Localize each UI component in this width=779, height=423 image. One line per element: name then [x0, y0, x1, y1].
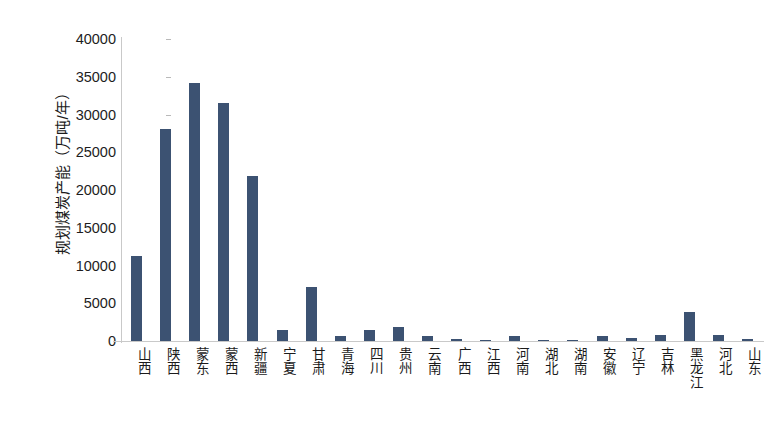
x-tick-label: 广西: [450, 347, 470, 375]
y-tick-label: 0: [50, 333, 116, 349]
x-tick-label: 宁夏: [275, 347, 295, 375]
x-axis-line: [113, 341, 764, 342]
x-tick-label: 河北: [711, 347, 731, 375]
x-tick-label: 陕西: [159, 347, 179, 375]
bar-chart: 规划煤炭产能（万吨/年） 050001000015000200002500030…: [0, 0, 779, 423]
bar: [247, 176, 258, 341]
bar: [567, 340, 578, 341]
bar: [218, 103, 229, 341]
bar: [393, 327, 404, 341]
bar: [509, 336, 520, 341]
x-tick-label: 甘肃: [304, 347, 324, 375]
bar: [422, 336, 433, 341]
x-tick-label: 山西: [130, 347, 150, 375]
x-tick-label: 贵州: [391, 347, 411, 375]
bar: [335, 336, 346, 341]
bar: [713, 335, 724, 341]
bar: [131, 256, 142, 341]
x-tick-label: 云南: [420, 347, 440, 375]
bar: [538, 340, 549, 341]
y-tick-label: 30000: [50, 107, 116, 123]
bar: [160, 129, 171, 341]
bar: [451, 339, 462, 341]
y-tick-label: 25000: [50, 144, 116, 160]
bar: [480, 340, 491, 342]
y-tick-label: 5000: [50, 295, 116, 311]
x-tick-label: 江西: [479, 347, 499, 375]
bar: [364, 330, 375, 341]
x-tick-label: 湖南: [566, 347, 586, 375]
bar: [684, 312, 695, 341]
bar: [189, 83, 200, 341]
y-tick-label: 20000: [50, 182, 116, 198]
x-tick-label: 四川: [362, 347, 382, 375]
x-tick-label: 青海: [333, 347, 353, 375]
x-tick-label: 河南: [508, 347, 528, 375]
x-tick-label: 蒙东: [188, 347, 208, 375]
bar: [626, 338, 637, 341]
x-tick-label: 山东: [740, 347, 760, 375]
y-axis-tick-labels: 0500010000150002000025000300003500040000: [44, 0, 116, 423]
bar: [655, 335, 666, 341]
x-tick-label: 黑龙江: [682, 347, 702, 389]
x-tick-label: 新疆: [246, 347, 266, 375]
y-tick-label: 40000: [50, 31, 116, 47]
plot-area: [122, 39, 762, 341]
bar: [277, 330, 288, 341]
y-tick-label: 10000: [50, 258, 116, 274]
x-tick-label: 湖北: [537, 347, 557, 375]
x-tick-label: 辽宁: [624, 347, 644, 375]
y-tick-label: 35000: [50, 69, 116, 85]
y-tick-label: 15000: [50, 220, 116, 236]
x-tick-label: 吉林: [653, 347, 673, 375]
bar: [742, 339, 753, 341]
bar: [597, 336, 608, 341]
x-tick-label: 蒙西: [217, 347, 237, 375]
x-tick-label: 安徽: [595, 347, 615, 375]
bar: [306, 287, 317, 341]
